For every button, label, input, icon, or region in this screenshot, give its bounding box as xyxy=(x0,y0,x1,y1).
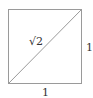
right-side-label: 1 xyxy=(86,42,93,53)
square-diagram xyxy=(0,0,93,98)
diagonal-label: √2 xyxy=(29,36,43,47)
diagonal xyxy=(9,10,82,84)
bottom-side-label: 1 xyxy=(42,87,49,98)
